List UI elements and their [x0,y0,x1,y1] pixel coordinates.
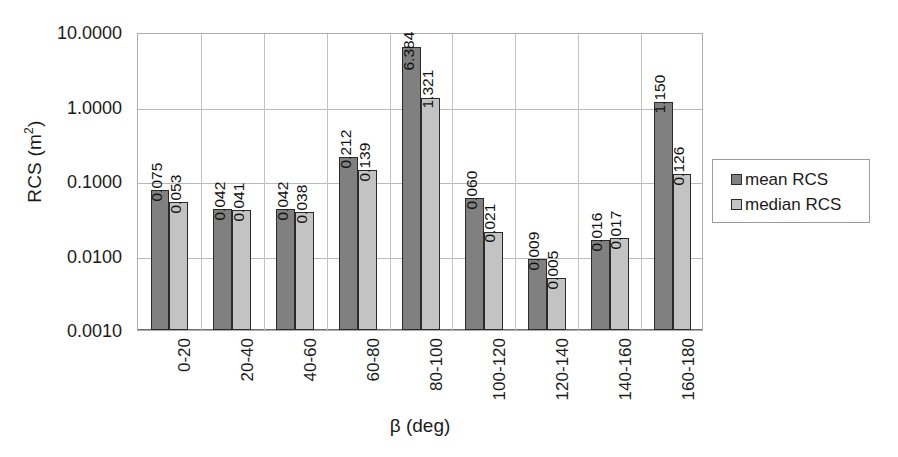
bar-group: 0.0160.017 [578,34,641,330]
bar [295,212,314,330]
bar-group: 0.2120.139 [327,34,390,330]
x-axis-tick-label: 80-100 [428,338,445,391]
chart-legend: mean RCS median RCS [712,159,870,223]
y-axis-tick-label: 0.0100 [67,248,122,266]
bar-value-label: 0.042 [212,182,228,221]
bar-group: 0.0750.053 [138,34,201,330]
bar-value-label: 1.150 [652,75,668,114]
bar-value-label: 0.016 [589,213,605,252]
bar [169,202,188,330]
bar-group: 0.0090.005 [515,34,578,330]
bar-value-label: 0.017 [608,211,624,250]
bar-value-label: 0.038 [293,185,309,224]
bar-value-label: 0.139 [356,143,372,182]
rcs-bar-chart: RCS (m2) 10.00001.00000.10000.01000.0010… [0,0,898,457]
y-axis-tick-label: 0.1000 [67,173,122,191]
x-axis-tick-label: 20-40 [239,338,256,381]
legend-item-mean: mean RCS [731,167,869,192]
bar [213,209,232,330]
bar-value-label: 0.126 [671,146,687,185]
bar [610,238,629,330]
bar [421,98,440,331]
y-axis-tick-label: 10.0000 [57,24,122,42]
bar [339,157,358,330]
bar-value-label: 0.021 [482,204,498,243]
x-axis-tick-label: 140-160 [617,338,634,400]
bar-group: 6.3841.321 [390,34,453,330]
x-axis-title: β (deg) [137,415,703,437]
y-axis-tick-label: 1.0000 [67,99,122,117]
x-axis-tick-labels: 0-2020-4040-6060-8080-100100-120120-1401… [137,332,703,422]
x-axis-tick-label: 60-80 [365,338,382,381]
bar [484,232,503,331]
legend-swatch-median-icon [731,199,742,210]
x-axis-tick-label: 0-20 [176,338,193,372]
x-axis-tick-label: 40-60 [302,338,319,381]
y-axis-tick-label: 0.0010 [67,322,122,340]
x-axis-tick-label: 160-180 [680,338,697,400]
bar-value-label: 0.053 [168,174,184,213]
bar [673,174,692,330]
legend-label-mean: mean RCS [745,171,828,188]
bar [232,210,251,330]
bar-value-label: 0.042 [274,182,290,221]
y-axis-tick-labels: 10.00001.00000.10000.01000.0010 [18,33,130,331]
bar-value-label: 0.075 [149,163,165,202]
bar-group: 1.1500.126 [641,34,704,330]
bar-value-label: 0.041 [230,183,246,222]
bar [654,102,673,330]
bar-group: 0.0600.021 [452,34,515,330]
bar-group: 0.0420.041 [201,34,264,330]
legend-item-median: median RCS [731,192,869,217]
x-axis-tick-label: 120-140 [554,338,571,400]
bar-value-label: 0.060 [463,170,479,209]
bar-value-label: 0.009 [526,232,542,271]
plot-area: 0.0750.0530.0420.0410.0420.0380.2120.139… [137,33,703,331]
bar-value-label: 0.212 [337,129,353,168]
x-axis-tick-label: 100-120 [491,338,508,400]
bar [358,170,377,330]
legend-swatch-mean-icon [731,174,742,185]
bar-value-label: 0.005 [545,251,561,290]
bar [276,209,295,330]
legend-label-median: median RCS [745,196,841,213]
bar-group: 0.0420.038 [264,34,327,330]
bar-value-label: 6.384 [400,31,416,70]
bar [591,240,610,330]
bar-value-label: 1.321 [419,70,435,109]
